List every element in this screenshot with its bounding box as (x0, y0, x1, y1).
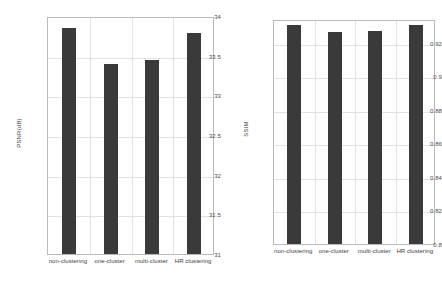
gridline-vertical (355, 21, 356, 244)
ssim-panel: SSIM 0.80.820.840.860.880.90.92 non-clus… (221, 0, 442, 288)
bar-non-clustering (62, 28, 76, 254)
psnr-y-tick-label: 33 (179, 93, 221, 99)
bar-multi-cluster (368, 31, 382, 244)
bar-non-clustering (287, 25, 301, 244)
psnr-y-tick-label: 32.5 (179, 133, 221, 139)
ssim-x-tick-label: HR clustering (391, 248, 440, 254)
bar-multi-cluster (145, 60, 159, 254)
gridline-vertical (315, 21, 316, 244)
psnr-y-tick-label: 33.5 (179, 54, 221, 60)
bar-hr-clustering (187, 33, 201, 254)
psnr-x-tick-label: HR clustering (168, 258, 218, 264)
bar-one-cluster (104, 64, 118, 254)
gridline-vertical (90, 18, 91, 254)
ssim-y-tick-label: 0.9 (395, 74, 442, 80)
psnr-y-tick-label: 34 (179, 14, 221, 20)
ssim-y-tick-label: 0.86 (395, 141, 442, 147)
psnr-y-tick-label: 32 (179, 173, 221, 179)
gridline-vertical (173, 18, 174, 254)
ssim-y-tick-label: 0.92 (395, 41, 442, 47)
ssim-y-tick-label: 0.84 (395, 175, 442, 181)
ssim-y-tick-label: 0.88 (395, 108, 442, 114)
figure-two-bar-charts: PSNR(dB) 3131.53232.53333.534 non-cluste… (0, 0, 442, 288)
gridline-vertical (132, 18, 133, 254)
ssim-y-axis-label: SSIM (243, 99, 249, 159)
psnr-y-tick-label: 31.5 (179, 212, 221, 218)
ssim-y-tick-label: 0.82 (395, 208, 442, 214)
psnr-panel: PSNR(dB) 3131.53232.53333.534 non-cluste… (0, 0, 221, 288)
psnr-y-axis-label: PSNR(dB) (16, 103, 22, 163)
bar-one-cluster (328, 32, 342, 244)
